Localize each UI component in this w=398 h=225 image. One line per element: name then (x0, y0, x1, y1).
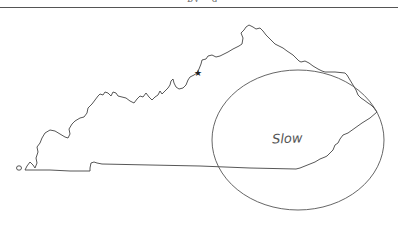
northern-kentucky-loop (250, 67, 300, 84)
west-tip-loop (17, 166, 22, 170)
kentucky-map: ★ (0, 0, 398, 225)
slow-region-label: Slow (272, 130, 303, 146)
state-outline-southeast-border (296, 112, 377, 169)
east-connector (325, 72, 345, 73)
state-outline-north-border (25, 25, 325, 170)
state-outline-south-border (25, 162, 296, 171)
star-icon: ★ (194, 68, 202, 78)
